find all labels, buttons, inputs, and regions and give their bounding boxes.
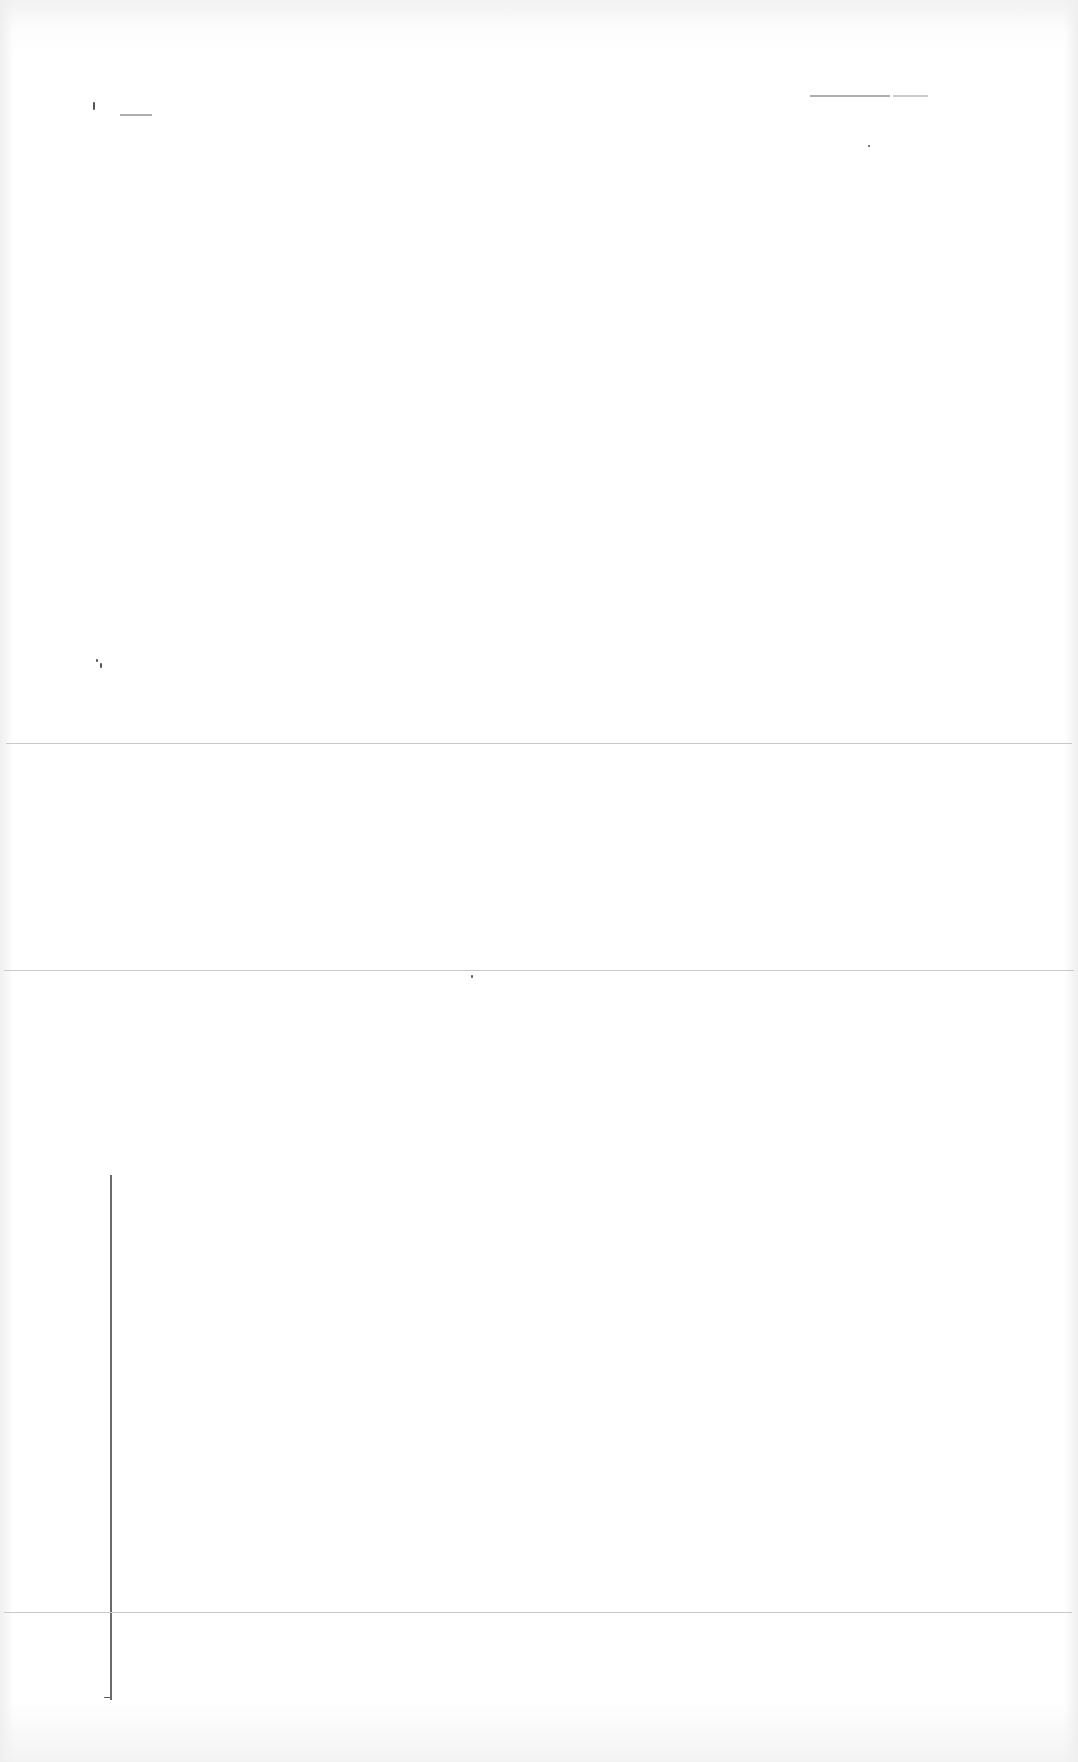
margin-mark (96, 659, 98, 662)
divider-rule-1 (6, 743, 1072, 744)
header-dot (868, 145, 870, 147)
header-right-text (810, 95, 890, 97)
header-left-text (120, 114, 152, 116)
scan-edge-left (0, 0, 14, 1762)
axis-tick (104, 1697, 110, 1698)
scan-edge-right (1064, 0, 1078, 1762)
header-right-text-2 (893, 95, 928, 97)
divider-rule-3 (4, 1612, 1072, 1613)
divider-rule-2 (4, 970, 1074, 971)
vertical-axis-line (110, 1175, 112, 1700)
header-left-mark (93, 102, 95, 110)
scanned-page (0, 0, 1078, 1762)
center-mark (471, 975, 473, 978)
margin-mark-2 (100, 663, 102, 668)
